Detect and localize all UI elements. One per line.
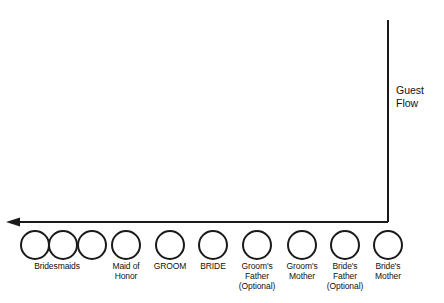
guest-flow-path	[6, 20, 388, 227]
node-brides-mother	[374, 231, 402, 259]
node-bridesmaid-3	[78, 231, 106, 259]
label-groom: GROOM	[144, 261, 196, 271]
left-arrow-icon	[6, 218, 20, 227]
node-bride	[199, 231, 227, 259]
flow-diagram-svg	[0, 0, 444, 303]
node-groom	[156, 231, 184, 259]
node-grooms-mother	[288, 231, 316, 259]
node-grooms-father	[243, 231, 271, 259]
guest-flow-label: Guest Flow	[396, 84, 442, 110]
person-nodes	[21, 231, 402, 259]
node-bridesmaid-1	[21, 231, 49, 259]
receiving-line-diagram: Bridesmaids Maid of Honor GROOM BRIDE Gr…	[0, 0, 444, 303]
node-bridesmaid-2	[49, 231, 77, 259]
node-maid-of-honor	[112, 231, 140, 259]
label-brides-mother: Bride's Mother	[363, 261, 413, 281]
label-bridesmaids: Bridesmaids	[20, 261, 94, 271]
node-brides-father	[331, 231, 359, 259]
